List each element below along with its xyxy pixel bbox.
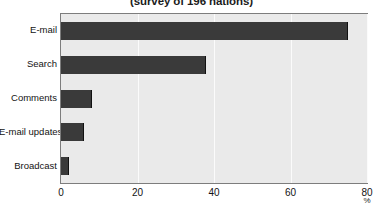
bar-row: [61, 56, 367, 74]
bar-e-mail-updates: [61, 123, 84, 141]
x-tick-label: 20: [132, 187, 143, 199]
category-label-e-mail: E-mail: [0, 24, 57, 35]
category-axis-labels: E-mail Search Comments E-mail updates Br…: [0, 13, 57, 184]
category-label-broadcast: Broadcast: [0, 160, 57, 171]
bar-search: [61, 56, 206, 74]
category-label-search: Search: [0, 58, 57, 69]
gridline: [367, 14, 368, 183]
axis-unit-label: %: [363, 196, 370, 205]
chart-title: (survey of 196 nations): [0, 0, 383, 8]
plot-inner: [61, 14, 367, 183]
plot-area: [60, 13, 368, 184]
bar-row: [61, 157, 367, 175]
x-tick-label: 0: [58, 187, 64, 199]
category-label-e-mail-updates: E-mail updates: [0, 126, 57, 137]
bar-broadcast: [61, 157, 69, 175]
x-tick-label: 60: [285, 187, 296, 199]
chart-title-band: (survey of 196 nations): [0, 0, 383, 11]
x-tick-label: 40: [208, 187, 219, 199]
bar-row: [61, 22, 367, 40]
bar-row: [61, 123, 367, 141]
bar-comments: [61, 90, 92, 108]
bar-e-mail: [61, 22, 348, 40]
value-axis-labels: 020406080: [60, 184, 368, 211]
bar-chart-figure: (survey of 196 nations) E-mail Search Co…: [0, 0, 383, 211]
category-label-comments: Comments: [0, 92, 57, 103]
bar-row: [61, 90, 367, 108]
